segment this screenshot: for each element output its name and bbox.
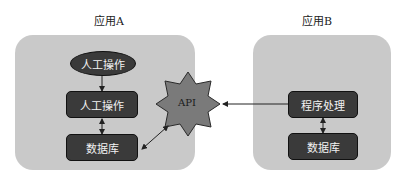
edge-db-a-to-api — [142, 126, 168, 149]
database-a-box: 数据库 — [66, 134, 138, 161]
api-label: API — [178, 97, 196, 108]
database-b-box: 数据库 — [288, 133, 358, 160]
manual-op-box: 人工操作 — [66, 91, 138, 118]
manual-op-ellipse: 人工操作 — [70, 51, 136, 76]
program-processing-box: 程序处理 — [288, 91, 358, 118]
